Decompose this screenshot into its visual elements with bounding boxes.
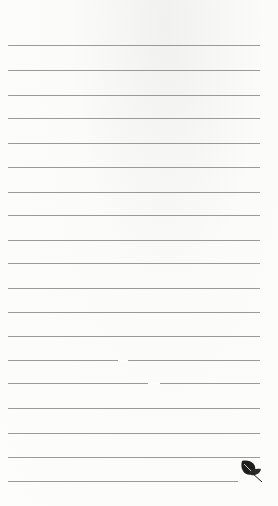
ruled-line	[8, 95, 260, 96]
ruled-line	[8, 192, 260, 193]
ruled-line	[8, 45, 260, 46]
leaf-icon	[240, 459, 262, 483]
ruled-line	[8, 118, 260, 119]
ruled-line	[8, 263, 260, 264]
ruled-line	[8, 457, 260, 458]
lined-paper	[0, 0, 278, 506]
ruled-line	[8, 433, 260, 434]
ruled-line	[8, 408, 260, 409]
ruled-line	[8, 288, 260, 289]
ruled-line	[8, 336, 260, 337]
line-gap	[118, 360, 128, 362]
line-gap	[148, 383, 160, 385]
ruled-line	[8, 481, 238, 482]
ruled-line	[8, 143, 260, 144]
ruled-line	[8, 383, 260, 384]
ruled-line	[8, 240, 260, 241]
ruled-line	[8, 70, 260, 71]
ruled-line	[8, 215, 260, 216]
ruled-line	[8, 167, 260, 168]
ruled-line	[8, 360, 260, 361]
ruled-line	[8, 312, 260, 313]
